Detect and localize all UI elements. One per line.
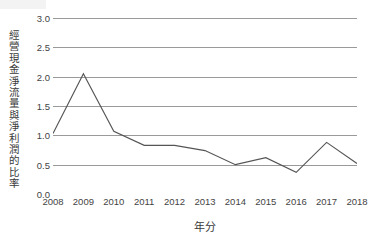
- x-tick-label-2010: 2010: [103, 196, 124, 207]
- plot-svg: [53, 18, 357, 194]
- y-tick-label-0.5: 0.5: [24, 159, 50, 170]
- x-tick-label-2017: 2017: [316, 196, 337, 207]
- y-axis-title: 經營現金淨流量與淨利潤的比率: [2, 14, 24, 206]
- y-tick-label-3.0: 3.0: [24, 13, 50, 24]
- x-tick-label-2009: 2009: [73, 196, 94, 207]
- plot-area: [53, 18, 357, 194]
- x-tick-label-2018: 2018: [346, 196, 367, 207]
- x-axis-title: 年分: [53, 218, 357, 234]
- x-tick-label-2015: 2015: [255, 196, 276, 207]
- y-tick-label-2.5: 2.5: [24, 42, 50, 53]
- series-polyline: [53, 74, 357, 173]
- gridlines: [53, 19, 357, 195]
- line-chart: 經營現金淨流量與淨利潤的比率 0.00.51.01.52.02.53.0 200…: [0, 0, 371, 248]
- x-tick-label-2011: 2011: [134, 196, 154, 207]
- x-tick-label-2012: 2012: [164, 196, 185, 207]
- x-tick-label-2016: 2016: [286, 196, 307, 207]
- x-axis-tick-labels: 2008200920102011201220132014201520162017…: [53, 196, 357, 212]
- data-series-line: [53, 74, 357, 173]
- x-tick-label-2013: 2013: [194, 196, 215, 207]
- x-tick-label-2014: 2014: [225, 196, 246, 207]
- y-tick-label-1.5: 1.5: [24, 101, 50, 112]
- y-tick-label-2.0: 2.0: [24, 71, 50, 82]
- y-tick-label-1.0: 1.0: [24, 130, 50, 141]
- y-axis-tick-labels: 0.00.51.01.52.02.53.0: [22, 0, 50, 248]
- y-axis-title-text: 經營現金淨流量與淨利潤的比率: [7, 30, 19, 190]
- x-tick-label-2008: 2008: [42, 196, 63, 207]
